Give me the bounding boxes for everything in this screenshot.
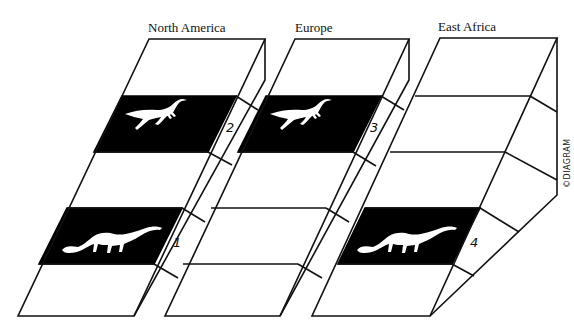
site-number-2: 2 bbox=[226, 120, 234, 135]
site-number-3: 3 bbox=[370, 120, 378, 135]
column-east-africa bbox=[312, 38, 557, 316]
rock-strata-diagram: 2 1 3 4 bbox=[0, 0, 574, 333]
column-europe bbox=[165, 39, 409, 316]
site-number-1: 1 bbox=[173, 235, 181, 250]
site-number-4: 4 bbox=[470, 235, 478, 250]
column-north-america bbox=[18, 39, 265, 316]
